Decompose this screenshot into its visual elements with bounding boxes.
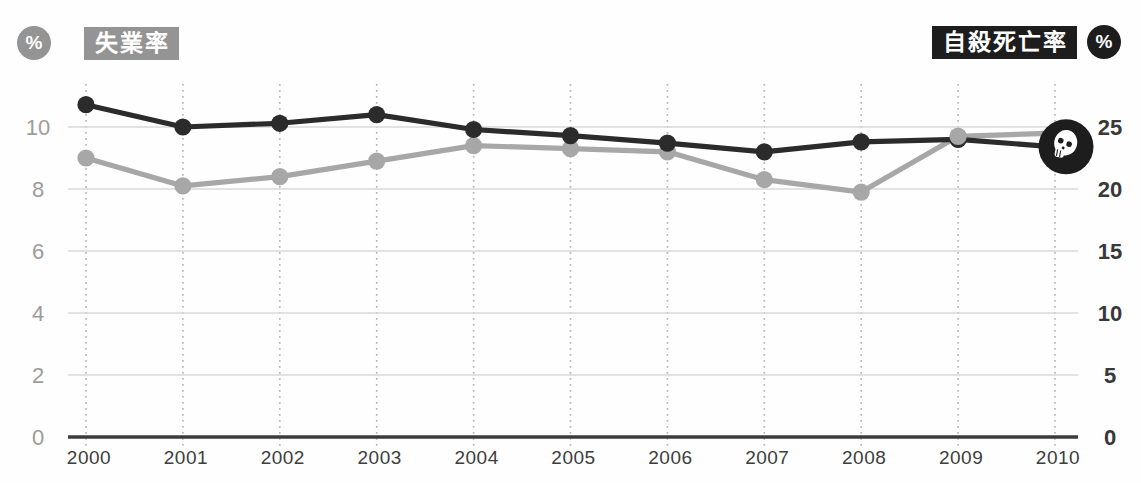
x-axis-label-2000: 2000 xyxy=(67,447,111,468)
x-axis-label-2009: 2009 xyxy=(939,447,983,468)
x-axis-label-2002: 2002 xyxy=(261,447,305,468)
x-axis-label-2005: 2005 xyxy=(551,447,595,468)
y-axis-left-label-8: 8 xyxy=(32,177,44,202)
point-unemployment-2002 xyxy=(271,168,288,185)
x-axis-label-2010: 2010 xyxy=(1036,447,1080,468)
y-axis-left-label-0: 0 xyxy=(32,425,44,450)
x-axis-label-2003: 2003 xyxy=(358,447,402,468)
point-suicide-2007 xyxy=(756,143,773,160)
point-suicide-2005 xyxy=(562,127,579,144)
x-axis-label-2007: 2007 xyxy=(745,447,789,468)
x-axis-label-2006: 2006 xyxy=(648,447,692,468)
y-axis-left-label-10: 10 xyxy=(26,115,50,140)
point-unemployment-2008 xyxy=(853,184,870,201)
x-axis-label-2008: 2008 xyxy=(842,447,886,468)
y-axis-right-label-0: 0 xyxy=(1104,425,1116,450)
point-unemployment-2004 xyxy=(465,137,482,154)
point-suicide-2008 xyxy=(853,133,870,150)
point-suicide-2004 xyxy=(465,121,482,138)
point-unemployment-2003 xyxy=(368,153,385,170)
point-unemployment-2000 xyxy=(77,149,94,166)
skull-icon xyxy=(1039,119,1094,174)
y-axis-right-label-20: 20 xyxy=(1098,177,1122,202)
chart-svg: 0246810051015202520002001200220032004200… xyxy=(0,0,1141,483)
y-axis-right-label-10: 10 xyxy=(1098,301,1122,326)
point-unemployment-2007 xyxy=(756,171,773,188)
suicide-unemployment-infographic: % 失業率 自殺死亡率 % 02468100510152025200020012… xyxy=(0,0,1141,483)
point-unemployment-2001 xyxy=(174,177,191,194)
point-suicide-2006 xyxy=(659,135,676,152)
y-axis-right-label-5: 5 xyxy=(1104,363,1116,388)
point-unemployment-2009-top xyxy=(950,128,967,145)
y-axis-right-label-15: 15 xyxy=(1098,239,1122,264)
point-suicide-2002 xyxy=(271,115,288,132)
point-suicide-2003 xyxy=(368,106,385,123)
y-axis-left-label-6: 6 xyxy=(32,239,44,264)
point-suicide-2001 xyxy=(174,118,191,135)
y-axis-right-label-25: 25 xyxy=(1098,115,1122,140)
point-suicide-2000 xyxy=(77,96,94,113)
x-axis-label-2001: 2001 xyxy=(164,447,208,468)
x-axis-label-2004: 2004 xyxy=(454,447,498,468)
y-axis-left-label-2: 2 xyxy=(32,363,44,388)
y-axis-left-label-4: 4 xyxy=(32,301,44,326)
